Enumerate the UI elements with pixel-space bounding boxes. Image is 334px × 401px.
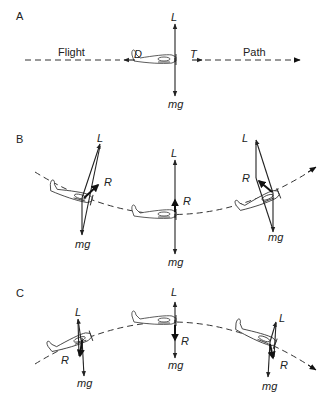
resultant-label: R [61,354,69,366]
lift-label: L [242,132,248,144]
resultant-vector [270,344,273,358]
thrust-label: T [190,48,198,60]
resultant-label: R [181,335,189,347]
aircraft-icon [232,318,279,348]
drag-label: D [134,48,142,60]
aircraft-b-left: L R mg [48,132,112,250]
aircraft-b-right: L R mg [234,132,284,243]
lift-label: L [171,11,177,23]
path-arrowhead [308,365,316,370]
aircraft-icon [46,327,93,356]
panel-label-b: B [16,133,23,145]
weight-label: mg [168,359,184,371]
weight-label: mg [168,256,184,268]
resultant-label: R [104,176,112,188]
aircraft-c-right: L R mg [232,312,288,392]
weight-label: mg [77,377,93,389]
resultant-label: R [183,195,191,207]
panel-b: B L R mg L R mg [16,132,316,268]
weight-label: mg [168,98,184,110]
panel-c: C L R mg L R mg [16,286,316,392]
weight-label: mg [268,231,284,243]
path-label: Path [243,46,266,58]
resultant-label: R [280,359,288,371]
weight-label: mg [75,238,91,250]
aircraft-icon [132,311,176,326]
aircraft-icon [234,184,281,214]
weight-label: mg [262,380,278,392]
panel-label-a: A [16,10,24,22]
aircraft-c-left: L R mg [46,306,93,389]
aircraft-b-center: L R mg [132,147,191,268]
path-arrowhead [308,167,316,172]
aircraft-icon [132,205,176,220]
lift-label: L [75,306,81,318]
lift-label: L [279,312,285,324]
panel-a: A Flight Path L mg D T [16,10,300,110]
panel-label-c: C [16,287,24,299]
resultant-label: R [242,172,250,184]
lift-label: L [97,132,103,144]
lift-label: L [171,147,177,159]
flight-label: Flight [58,46,85,58]
lift-label: L [171,286,177,298]
aircraft-c-center: L R mg [132,286,189,371]
flight-force-diagram: A Flight Path L mg D T B L R mg [0,0,334,401]
